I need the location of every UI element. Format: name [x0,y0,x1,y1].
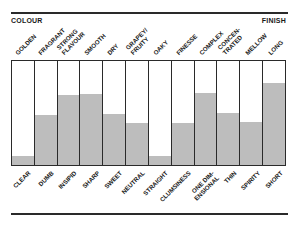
bar-fill [58,95,80,165]
header-colour: COLOUR [11,17,43,24]
bottom-label-line: INSIPID [57,170,77,190]
top-label: GRAPEY/FRUITY [125,27,154,56]
top-label-line: MELLOW [244,32,268,56]
top-label: SMOOTH [84,32,108,56]
bottom-label-line: DUMB [37,170,55,188]
bar-fill [263,83,285,165]
bar-column [240,61,263,165]
header-finish: FINISH [262,17,286,24]
bottom-label-line: SWEET [104,170,124,190]
top-label-line: DRY [107,42,121,56]
top-label: DRY [107,42,121,56]
bottom-label: SHORT [264,170,284,190]
bottom-label-line: THIN [224,170,239,185]
top-label: MELLOW [244,32,268,56]
top-label-line: OAKY [152,39,169,56]
bar-fill [149,156,171,165]
top-label: OAKY [152,39,169,56]
bar-column [12,61,35,165]
bottom-label-line: SHARP [81,170,101,190]
top-label-line: SMOOTH [84,32,108,56]
bottom-label: CLEAR [12,170,32,190]
top-label-line: LONG [267,39,284,56]
bar-fill [217,113,239,165]
bar-column [172,61,195,165]
bottom-label-line: SPIRITY [240,170,262,192]
bar-fill [12,156,34,165]
bar-column [126,61,149,165]
top-label: FINESSE [175,33,198,56]
bar-column [195,61,218,165]
bar-fill [195,93,217,165]
bar-fill [103,114,125,165]
bar-column [149,61,172,165]
bottom-label-line: SHORT [264,170,284,190]
bottom-label: INSIPID [57,170,77,190]
bottom-label-line: CLEAR [12,170,32,190]
bar-column [263,61,285,165]
bar-column [35,61,58,165]
bottom-label: DUMB [37,170,55,188]
bar-column [103,61,126,165]
bar-column [217,61,240,165]
top-label: LONG [267,39,284,56]
bottom-label: SHARP [81,170,101,190]
bottom-label: SWEET [104,170,124,190]
bar-fill [35,115,57,165]
bottom-label: SPIRITY [240,170,262,192]
bar-fill [126,123,148,165]
bar-fill [240,122,262,165]
top-label-line: FINESSE [175,33,198,56]
bar-column [80,61,103,165]
top-label: GOLDEN [15,33,38,56]
bottom-label: ONE DIM-ENSIONAL [188,170,220,202]
bar-fill [80,94,102,165]
bottom-label: THIN [224,170,239,185]
bottom-rule [11,213,288,215]
tasting-profile-chart [11,60,286,166]
top-label-line: GOLDEN [15,33,38,56]
top-rule [11,12,288,14]
bar-fill [172,123,194,165]
bar-column [58,61,81,165]
